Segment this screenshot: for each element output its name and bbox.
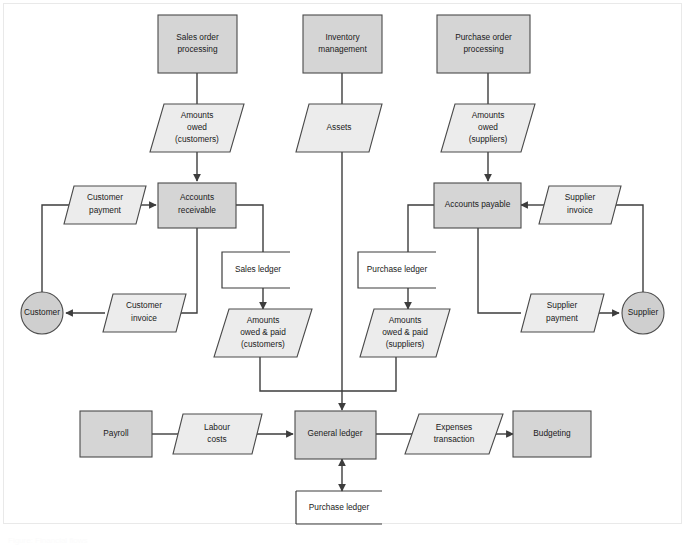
process-budgeting[interactable]: Budgeting — [513, 411, 591, 457]
store-label: Purchase ledger — [309, 502, 370, 512]
flow-label: Expenses — [436, 422, 472, 432]
process-label: Budgeting — [533, 428, 571, 438]
flow-supplier-invoice[interactable]: Supplier invoice — [539, 186, 621, 224]
process-accounts-receivable[interactable]: Accounts receivable — [158, 183, 236, 228]
process-label: Accounts payable — [445, 199, 511, 209]
store-label: Sales ledger — [235, 264, 281, 274]
flow-amounts-owed-paid-customers[interactable]: Amounts owed & paid (customers) — [214, 309, 312, 357]
connector-amounts-owed-paid-customers-to-bus — [260, 357, 342, 391]
flow-label: payment — [89, 205, 122, 215]
entity-customer[interactable]: Customer — [21, 292, 63, 334]
connector-ar-to-sales-ledger — [236, 205, 263, 252]
flow-label: Labour — [204, 422, 230, 432]
process-label: processing — [463, 44, 504, 54]
flow-label: owed — [478, 122, 498, 132]
flow-label: owed & paid — [382, 327, 428, 337]
figure-caption: Figure: Financial flows — [8, 536, 88, 545]
flow-label: Amounts — [389, 315, 422, 325]
process-label: Sales order — [176, 32, 219, 42]
process-label: Payroll — [103, 428, 129, 438]
connector-ap-to-purchase-ledger — [408, 205, 434, 252]
flow-label: Amounts — [472, 110, 505, 120]
flow-label: Supplier — [547, 300, 578, 310]
process-accounts-payable[interactable]: Accounts payable — [434, 183, 521, 228]
flow-label: owed & paid — [240, 327, 286, 337]
flow-label: owed — [187, 122, 207, 132]
connector-supplier-to-supplier-invoice — [611, 205, 643, 292]
process-general-ledger[interactable]: General ledger — [295, 411, 376, 459]
process-label: General ledger — [308, 428, 363, 438]
flow-label: Amounts — [247, 315, 280, 325]
flow-label: Supplier — [565, 192, 596, 202]
flow-assets[interactable]: Assets — [296, 104, 382, 152]
flow-label: (customers) — [241, 339, 285, 349]
process-label: receivable — [178, 205, 216, 215]
process-label: Purchase order — [455, 32, 512, 42]
flow-label: (suppliers) — [386, 339, 425, 349]
data-flow-diagram: Sales order processing Inventory managem… — [0, 0, 685, 550]
process-label: Accounts — [180, 192, 214, 202]
store-purchase-ledger-top[interactable]: Purchase ledger — [358, 252, 436, 288]
entity-label: Supplier — [628, 307, 659, 317]
flow-amounts-owed-customers[interactable]: Amounts owed (customers) — [150, 104, 244, 152]
store-purchase-ledger-bottom[interactable]: Purchase ledger — [296, 491, 382, 524]
flow-customer-payment[interactable]: Customer payment — [64, 186, 146, 224]
entity-supplier[interactable]: Supplier — [622, 292, 664, 334]
flow-labour-costs[interactable]: Labour costs — [173, 414, 262, 454]
flow-label: transaction — [434, 434, 475, 444]
process-sales-order-processing[interactable]: Sales order processing — [158, 15, 237, 73]
flow-customer-invoice[interactable]: Customer invoice — [103, 294, 186, 332]
process-label: Inventory — [325, 32, 360, 42]
flow-label: invoice — [131, 313, 157, 323]
entity-label: Customer — [24, 307, 60, 317]
flow-label: (customers) — [175, 134, 219, 144]
flow-expenses-transaction[interactable]: Expenses transaction — [405, 414, 503, 454]
flow-amounts-owed-suppliers[interactable]: Amounts owed (suppliers) — [441, 104, 535, 152]
flow-label: Amounts — [181, 110, 214, 120]
flow-supplier-payment[interactable]: Supplier payment — [521, 294, 604, 332]
process-label: management — [318, 44, 367, 54]
flow-amounts-owed-paid-suppliers[interactable]: Amounts owed & paid (suppliers) — [360, 309, 450, 357]
connector-amounts-owed-paid-suppliers-to-bus — [342, 357, 396, 391]
store-label: Purchase ledger — [367, 264, 428, 274]
connector-ap-to-supplier-payment — [478, 228, 521, 313]
flow-label: Customer — [87, 192, 123, 202]
process-payroll[interactable]: Payroll — [80, 411, 152, 457]
process-label: processing — [177, 44, 218, 54]
flow-label: costs — [207, 434, 226, 444]
flow-label: payment — [546, 313, 579, 323]
process-purchase-order-processing[interactable]: Purchase order processing — [437, 15, 530, 73]
flow-label: Customer — [126, 300, 162, 310]
store-sales-ledger[interactable]: Sales ledger — [222, 252, 290, 288]
flow-label: Assets — [327, 122, 352, 132]
process-inventory-management[interactable]: Inventory management — [303, 15, 382, 73]
flow-label: (suppliers) — [469, 134, 508, 144]
flow-label: invoice — [567, 205, 593, 215]
